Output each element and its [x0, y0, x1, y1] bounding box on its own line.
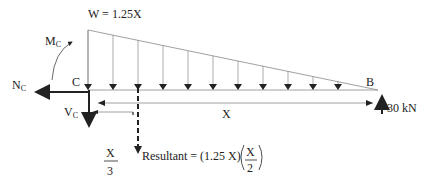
length-label: X [222, 107, 231, 121]
centroid-denominator: 3 [107, 164, 113, 178]
free-body-diagram: W = 1.25X MC NC C B VC X 30 kN X 3 Resul… [0, 0, 426, 180]
reaction-label: 30 kN [387, 101, 417, 115]
resultant-denominator: 2 [247, 161, 253, 175]
load-label: W = 1.25X [88, 7, 142, 21]
shear-force-label: VC [64, 105, 78, 120]
distributed-load [84, 30, 378, 90]
normal-force-label: NC [12, 78, 26, 93]
point-b-label: B [366, 75, 374, 89]
resultant-formula: Resultant = (1.25 X) [142, 149, 241, 163]
resultant-numerator: X [246, 145, 255, 159]
centroid-numerator: X [106, 146, 115, 160]
point-c-label: C [72, 75, 80, 89]
moment-label: MC [45, 34, 61, 49]
